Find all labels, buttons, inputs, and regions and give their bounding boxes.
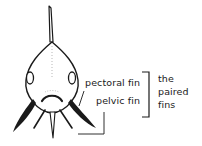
left-pelvic-fin <box>34 110 45 128</box>
paired-fins-label-line2: paired <box>158 85 198 98</box>
paired-fins-label-line3: fins <box>158 98 198 111</box>
pelvic-fin-label: pelvic fin <box>96 95 140 106</box>
pectoral-leader-line <box>79 91 84 106</box>
pectoral-fin-label: pectoral fin <box>85 77 140 88</box>
right-pelvic-fin <box>60 110 72 128</box>
left-pectoral-fin <box>13 99 36 132</box>
paired-fins-bracket <box>142 72 149 117</box>
right-pectoral-fin <box>68 99 96 128</box>
dorsal-fin <box>49 6 53 42</box>
paired-fins-label-line1: the <box>158 72 198 85</box>
paired-fins-label: the paired fins <box>158 72 198 111</box>
left-eye <box>27 72 34 84</box>
right-eye <box>69 72 76 84</box>
anal-fin <box>50 112 55 138</box>
